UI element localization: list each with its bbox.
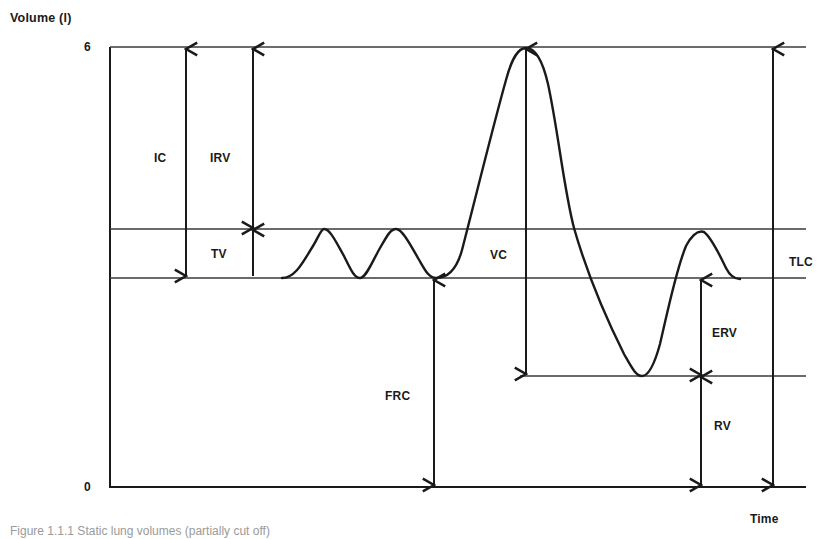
y-tick-6: 6: [84, 40, 91, 54]
figure-caption-cutoff: Figure 1.1.1 Static lung volumes (partia…: [10, 524, 270, 538]
label-tlc: TLC: [789, 255, 813, 269]
label-erv: ERV: [712, 326, 737, 340]
volume-trace: [282, 48, 740, 376]
y-tick-0: 0: [84, 480, 91, 494]
label-rv: RV: [714, 419, 731, 433]
measurement-arrows: [186, 49, 773, 485]
label-irv: IRV: [210, 151, 230, 165]
label-vc: VC: [490, 248, 507, 262]
label-frc: FRC: [385, 389, 410, 403]
label-tv: TV: [211, 247, 227, 261]
y-axis-title: Volume (l): [10, 11, 72, 25]
label-ic: IC: [154, 151, 166, 165]
x-axis-title: Time: [750, 512, 779, 526]
